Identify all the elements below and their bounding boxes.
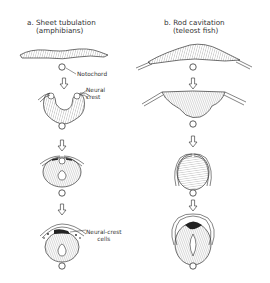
neural-tube-formation-diagram: a. Sheet tubulation (amphibians) b. Rod … — [0, 0, 270, 283]
panel-a-notochord-1 — [59, 64, 65, 70]
panel-b-arrow-1 — [189, 78, 197, 89]
panel-b-arrow-2 — [189, 136, 197, 147]
panel-b-stage2-neural-keel — [142, 91, 246, 118]
panel-a-arrow-2 — [58, 140, 66, 151]
panel-b-notochord-2 — [190, 121, 196, 127]
panel-b-stage4-neural-tube — [172, 214, 215, 265]
panel-a-stage2-neural-folds — [38, 90, 90, 124]
panel-a-stage3-neural-tube-closing — [40, 156, 84, 187]
panel-b-notochord-4 — [190, 263, 196, 269]
panel-a-notochord-2 — [59, 123, 65, 129]
panel-b-stage3-neural-rod — [175, 154, 212, 190]
panel-a-stage4-neural-tube-with-crest-cells — [40, 224, 86, 262]
diagram-drawing — [0, 0, 270, 283]
notochord-leader — [66, 68, 76, 74]
panel-a-notochord-4 — [59, 263, 65, 269]
neural-crest-cells — [54, 229, 70, 234]
panel-b-notochord-3 — [190, 190, 196, 196]
panel-a-arrow-3 — [58, 204, 66, 215]
panel-b-arrow-3 — [189, 200, 197, 211]
panel-b-notochord-1 — [190, 64, 196, 70]
panel-a-stage1-neural-plate — [20, 49, 108, 59]
panel-a-notochord-3 — [59, 190, 65, 196]
panel-a-arrow-1 — [60, 78, 68, 89]
